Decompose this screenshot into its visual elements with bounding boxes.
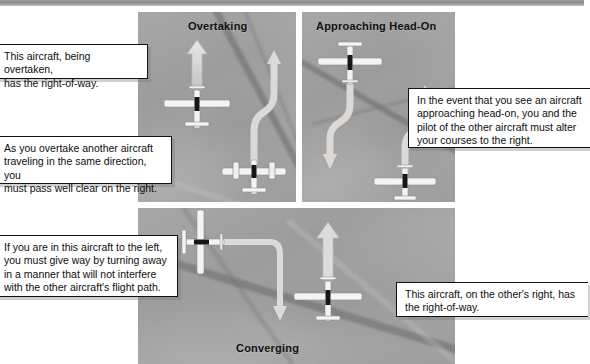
scanner-bar (0, 0, 584, 6)
panel-title-converging: Converging (236, 342, 299, 354)
panel-title-approaching-head-on: Approaching Head-On (316, 20, 437, 32)
callout-overtaking: As you overtake another aircraft traveli… (0, 136, 172, 184)
callout-overtaken: This aircraft, being overtaken, has the … (0, 44, 148, 79)
callout-give-way: If you are in this aircraft to the left,… (0, 235, 178, 297)
panel-title-overtaking: Overtaking (188, 20, 247, 32)
callout-right-of-way: This aircraft, on the other's right, has… (396, 282, 588, 317)
callout-head-on: In the event that you see an aircraft ap… (408, 88, 590, 148)
